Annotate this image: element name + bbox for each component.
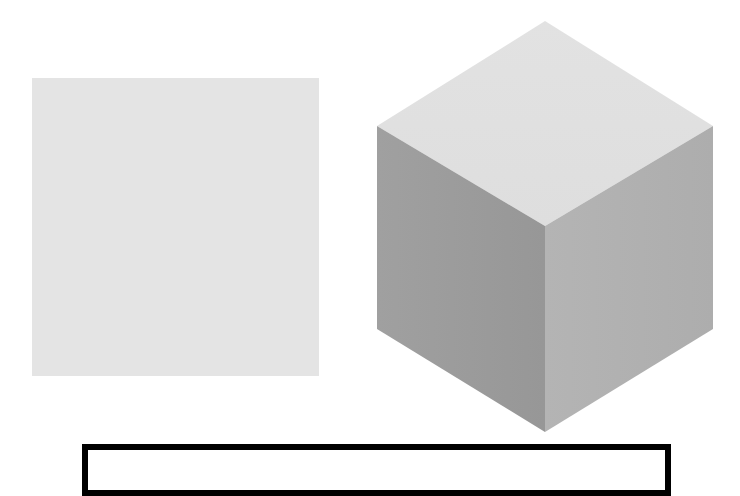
outlined-box (82, 444, 671, 496)
